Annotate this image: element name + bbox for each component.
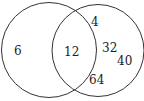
right-only-value-4: 4 bbox=[91, 15, 99, 29]
left-only-value: 6 bbox=[14, 44, 22, 58]
right-only-value-32: 32 bbox=[102, 41, 117, 55]
venn-diagram: 6 12 4 32 40 64 bbox=[0, 0, 144, 101]
right-only-value-64: 64 bbox=[89, 73, 105, 87]
intersection-value: 12 bbox=[64, 45, 79, 59]
right-only-value-40: 40 bbox=[117, 54, 132, 68]
